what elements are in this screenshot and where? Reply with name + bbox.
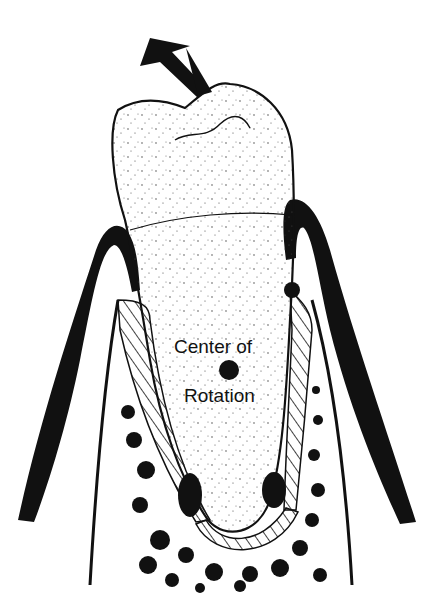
gingiva-left: [18, 226, 140, 522]
center-label-line2: Rotation: [184, 385, 255, 407]
center-label-line1: Center of: [174, 336, 252, 358]
center-of-rotation-dot: [219, 360, 239, 380]
tooth-diagram: [0, 0, 438, 612]
alveolar-bone-left: [90, 300, 118, 585]
